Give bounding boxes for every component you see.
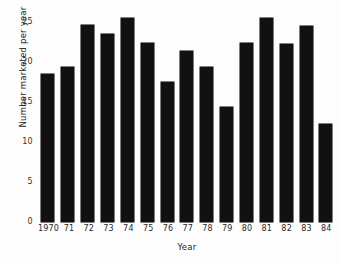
x-axis-tick-label: 72 [79,224,99,233]
x-axis-tick-label: 78 [198,224,218,233]
bar-slot [78,14,98,222]
bar [121,18,134,222]
y-axis-tick-label: 25 [22,18,33,26]
x-axis-tick-label: 81 [257,224,277,233]
bar-slot [137,14,157,222]
x-axis-tick-label: 84 [316,224,336,233]
x-axis-tick-label: 77 [178,224,198,233]
y-axis-tick-label: 20 [22,58,33,66]
bar [300,26,313,222]
bar-slot [38,14,58,222]
bar [200,67,213,222]
y-axis-tick-label: 0 [28,218,33,226]
plot-area [38,14,336,222]
bar [81,25,94,222]
bar [161,82,174,222]
y-axis-tick-label: 15 [22,98,33,106]
bar-slot [58,14,78,222]
bar [260,18,273,222]
x-axis-tick-label: 83 [297,224,317,233]
bar [319,124,332,222]
bar-slot [217,14,237,222]
bar [180,51,193,222]
y-axis-tick-labels: 0510152025 [0,0,36,265]
y-axis-tick-label: 5 [28,178,33,186]
x-axis-tick-label: 76 [158,224,178,233]
bar-slot [276,14,296,222]
x-axis-tick-label: 1970 [38,224,59,233]
bar [280,44,293,222]
x-axis-tick-label: 82 [277,224,297,233]
x-axis-tick-label: 79 [217,224,237,233]
bar [101,34,114,222]
x-axis-tick-label: 71 [59,224,79,233]
bar-slot [157,14,177,222]
bar-slot [316,14,336,222]
bar [141,43,154,222]
x-axis-tick-label: 80 [237,224,257,233]
bar-slot [98,14,118,222]
bar [240,43,253,222]
bar-slot [237,14,257,222]
bar-slot [177,14,197,222]
y-axis-tick-label: 10 [22,138,33,146]
bar-chart: Number marketed per year 0510152025 1970… [0,0,341,265]
bar [220,107,233,222]
bar [41,74,54,222]
x-axis-tick-label: 75 [138,224,158,233]
bar [61,67,74,222]
bar-slot [296,14,316,222]
bar-slot [117,14,137,222]
x-axis-tick-labels: 19707172737475767778798081828384 [38,224,336,233]
bar-slot [256,14,276,222]
bar-series [38,14,336,222]
x-axis-title: Year [38,242,336,252]
x-axis-tick-label: 74 [119,224,139,233]
bar-slot [197,14,217,222]
x-axis-tick-label: 73 [99,224,119,233]
